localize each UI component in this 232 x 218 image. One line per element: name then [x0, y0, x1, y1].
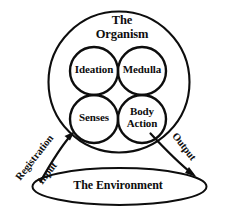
- node-label-medulla: Medulla: [110, 64, 174, 75]
- organism-title-line-1: The: [0, 14, 232, 27]
- organism-environment-diagram: The Organism Ideation Medulla Senses Bod…: [0, 0, 232, 218]
- organism-title-line-2-text: Organism: [96, 28, 149, 41]
- environment-label-text: The Environment: [73, 179, 162, 191]
- node-label-body-action-line-2: Action: [110, 117, 174, 129]
- node-label-body-action: Body Action: [110, 105, 174, 130]
- node-label-body-action-line-1: Body: [110, 105, 174, 117]
- environment-label: The Environment: [0, 179, 232, 191]
- organism-title-line-1-text: The: [112, 14, 133, 27]
- organism-title-line-2: Organism: [0, 28, 232, 41]
